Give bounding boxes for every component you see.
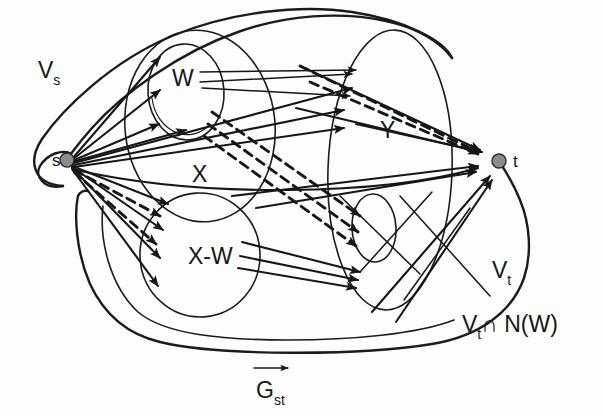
leader-line-vt: [400, 196, 490, 296]
edges-vt-cap-nw-to-t: [372, 176, 492, 322]
region-vt-cap-nw-ellipse: [350, 193, 397, 263]
label-node-t: t: [513, 152, 518, 171]
label-vs: Vs: [38, 57, 60, 88]
region-x-ellipse: [115, 23, 284, 230]
node-t[interactable]: [492, 154, 506, 168]
diagram-canvas: Vs s t W X Y X-W Vt Vt∩ N(W) Gst: [0, 0, 602, 416]
graph-partition-figure: Vs s t W X Y X-W Vt Vt∩ N(W) Gst: [0, 0, 602, 416]
label-group: Vs s t W X Y X-W Vt Vt∩ N(W) Gst: [38, 57, 558, 408]
label-w: W: [172, 65, 194, 91]
label-node-s: s: [52, 151, 61, 170]
leader-line-y-inner2: [360, 192, 432, 272]
label-vt-cap-nw: Vt∩ N(W): [462, 311, 558, 342]
edges-w-dashed-to-vt: [204, 112, 360, 246]
node-s[interactable]: [60, 153, 74, 167]
label-y: Y: [380, 117, 395, 143]
label-g-st: Gst: [256, 377, 285, 408]
leader-line-vt-cap-nw: [404, 208, 470, 300]
caption-g-st: Gst: [254, 368, 288, 408]
label-vt: Vt: [492, 257, 511, 288]
label-x: X: [192, 161, 207, 187]
edges-from-s-dashed: [74, 170, 160, 244]
label-x-minus-w: X-W: [188, 243, 233, 269]
